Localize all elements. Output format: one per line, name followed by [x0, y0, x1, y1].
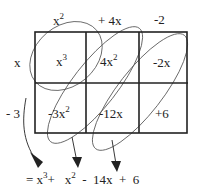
top-factor-4x: + 4x [98, 14, 122, 27]
cell-4x2: 4x2 [100, 55, 118, 68]
result-expression: = x3+ x2 - 14x + 6 [26, 173, 139, 186]
cell-neg12x: -12x [99, 107, 123, 120]
side-factor-x: x [14, 56, 21, 69]
group-ellipse-x2 [33, 15, 156, 156]
arrow-head-2 [72, 157, 82, 168]
side-factor-neg3: - 3 [6, 107, 20, 120]
grid-diagram [0, 0, 199, 188]
cell-neg2x: -2x [153, 56, 170, 69]
cell-pos6: +6 [155, 107, 169, 120]
arrow-head-1 [30, 152, 43, 168]
arrow-head-3 [111, 161, 121, 172]
top-factor-x2: x2 [53, 14, 64, 27]
top-factor-neg2: -2 [154, 13, 165, 26]
cell-neg3x2: -3x2 [48, 107, 70, 120]
cell-x3: x3 [56, 55, 67, 68]
